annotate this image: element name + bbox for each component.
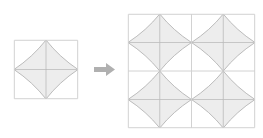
arrow-right-icon	[94, 62, 115, 77]
tiled-panel	[128, 14, 255, 128]
single-tile-graphic	[14, 40, 78, 99]
transformation-arrow	[94, 62, 115, 77]
diagram-stage	[0, 0, 263, 138]
tiled-grid-graphic	[128, 14, 255, 128]
single-tile-panel	[14, 40, 78, 99]
